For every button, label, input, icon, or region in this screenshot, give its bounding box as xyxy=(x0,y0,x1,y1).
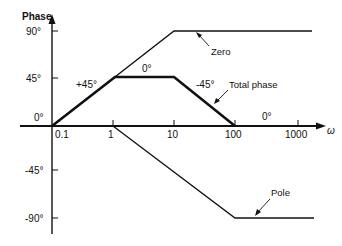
y-tick-90: 90° xyxy=(26,26,41,37)
zero-label: Zero xyxy=(211,46,231,57)
y-tick-neg90: -90° xyxy=(25,213,43,224)
x-axis-arrow-icon xyxy=(316,123,326,130)
x-tick-1000: 1000 xyxy=(285,129,308,140)
x-tick-100: 100 xyxy=(225,129,242,140)
total-phase-label: Total phase xyxy=(229,79,278,90)
flat-end-label: 0° xyxy=(262,111,272,122)
flat-mid-label: 0° xyxy=(142,63,152,74)
slope-down-label: -45° xyxy=(196,79,214,90)
total-phase-pointer xyxy=(217,90,228,101)
x-tick-10: 10 xyxy=(167,129,179,140)
y-tick-45: 45° xyxy=(26,73,41,84)
y-tick-0: 0° xyxy=(34,112,44,123)
pole-label: Pole xyxy=(271,187,290,198)
x-axis-label: ω xyxy=(327,125,335,136)
bode-phase-diagram: Phase 90° 45° 0° -45° -90° 0.1 1 10 100 … xyxy=(0,0,342,246)
x-tick-1: 1 xyxy=(108,129,114,140)
y-axis-label: Phase xyxy=(22,11,52,22)
pole-pointer xyxy=(258,199,270,212)
pole-curve xyxy=(113,126,314,218)
x-tick-0.1: 0.1 xyxy=(55,129,69,140)
y-tick-neg45: -45° xyxy=(25,165,43,176)
slope-up-label: +45° xyxy=(76,79,97,90)
